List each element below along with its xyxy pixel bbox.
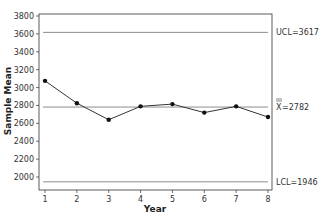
data-point-marker [202,110,206,114]
lcl-label: LCL=1946 [276,178,318,187]
data-point-marker [170,102,174,106]
y-tick-label: 2600 [14,119,34,128]
x-tick-label: 3 [106,195,111,204]
y-tick-label: 3000 [14,84,34,93]
y-tick-label: 3200 [14,66,34,75]
ucl-label: UCL=3617 [276,28,319,37]
x-tick-label: 1 [42,195,47,204]
data-series [43,79,270,122]
y-tick-label: 3400 [14,48,34,57]
y-tick-label: 2400 [14,137,34,146]
x-axis-title: Year [143,204,167,214]
data-point-marker [107,118,111,122]
data-point-marker [266,115,270,119]
plot-border [39,14,272,190]
series-line [45,81,268,120]
x-tick-label: 2 [74,195,79,204]
y-tick-label: 3800 [14,12,34,21]
data-point-marker [75,101,79,105]
data-point-marker [234,104,238,108]
y-tick-label: 2200 [14,155,34,164]
data-point-marker [43,79,47,83]
center-label-value: =2782 [282,103,309,112]
x-tick-label: 8 [265,195,270,204]
x-tick-label: 6 [202,195,207,204]
center-line-label: X =2782 [276,99,309,112]
y-tick-label: 2000 [14,173,34,182]
x-tick-label: 7 [234,195,239,204]
x-tick-label: 5 [170,195,175,204]
data-point-marker [138,104,142,108]
y-axis-title: Sample Mean [3,67,13,135]
control-chart: 2000220024002600280030003200340036003800… [0,0,320,220]
x-axis-ticks: 12345678 [42,190,270,204]
y-axis-ticks: 2000220024002600280030003200340036003800 [14,12,39,182]
plot-frame [39,14,272,190]
y-tick-label: 3600 [14,30,34,39]
y-tick-label: 2800 [14,101,34,110]
x-tick-label: 4 [138,195,143,204]
